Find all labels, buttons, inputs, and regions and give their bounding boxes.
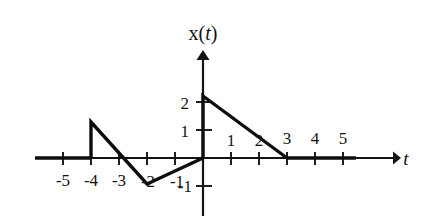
plot-title-prefix: x( — [189, 22, 206, 45]
x-axis-arrow-icon — [393, 152, 401, 165]
x-axis-label-t: t — [403, 148, 409, 169]
plot-canvas: -5 -4 -3 -2 -1 1 2 3 4 5 2 1 -1 x(t) t — [0, 0, 421, 222]
signal-plot-figure: -5 -4 -3 -2 -1 1 2 3 4 5 2 1 -1 x(t) t — [0, 0, 421, 222]
y-tick-labels-group: 2 1 -1 — [178, 94, 192, 196]
y-tick-label-2: 2 — [181, 94, 190, 113]
x-tick-label-3: 3 — [283, 129, 292, 148]
signal-segment-right-ramp — [203, 96, 287, 158]
x-tick-label-5: 5 — [339, 129, 348, 148]
y-tick-label-minus1: -1 — [178, 177, 192, 196]
x-tick-label-minus5: -5 — [56, 171, 70, 190]
y-axis-arrow-icon — [197, 50, 210, 60]
x-tick-label-2: 2 — [255, 131, 264, 150]
plot-title-suffix: ) — [211, 22, 218, 45]
x-tick-label-minus2: -2 — [141, 172, 155, 191]
y-tick-label-1: 1 — [181, 122, 190, 141]
plot-title-x-of-t: x(t) — [189, 22, 218, 45]
x-tick-label-1: 1 — [227, 131, 236, 150]
x-tick-labels-positive-group: 1 2 3 4 5 — [227, 129, 348, 150]
x-tick-label-minus4: -4 — [84, 171, 99, 190]
x-tick-label-4: 4 — [311, 129, 320, 148]
x-tick-label-minus3: -3 — [112, 171, 126, 190]
